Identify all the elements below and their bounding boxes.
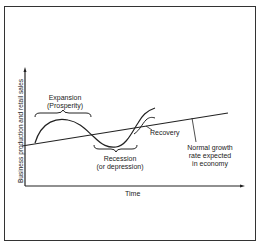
y-axis-label: Business production and retail sales [17,79,24,183]
trend-pointer [192,118,196,142]
recession-brace [94,145,137,152]
y-axis-arrow-icon [24,67,27,72]
recession-label-line-1: Recession [90,155,150,163]
trend-label-line-2: rate expected [184,152,236,160]
expansion-label-line-1: Expansion [40,94,90,102]
growth-trend-line [22,113,228,146]
recession-label: Recession (or depression) [90,155,150,171]
expansion-label: Expansion (Prosperity) [40,94,90,110]
trend-label-line-3: in economy [184,160,236,168]
business-cycle-diagram [0,0,262,245]
x-axis-label: Time [125,190,155,198]
recession-label-line-2: (or depression) [90,163,150,171]
trend-label-line-1: Normal growth [184,144,236,152]
expansion-label-line-2: (Prosperity) [40,102,90,110]
trend-label: Normal growth rate expected in economy [184,144,236,168]
recovery-label: Recovery [150,129,190,137]
expansion-brace [35,110,91,117]
x-axis-arrow-icon [240,185,245,188]
